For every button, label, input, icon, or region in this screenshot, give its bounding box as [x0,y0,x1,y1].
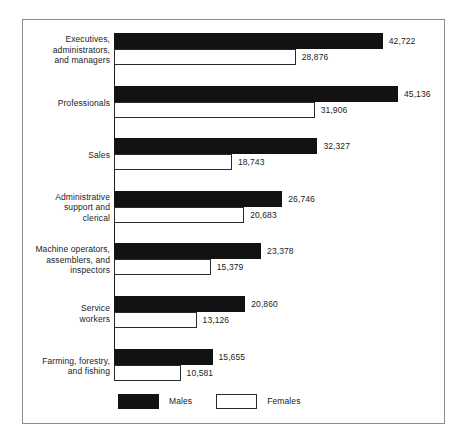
bar-value-label: 18,743 [232,157,265,167]
bar-row-females: 18,743 [114,154,458,170]
bar-row-males: 15,655 [114,349,458,365]
bar-value-label: 28,876 [296,52,329,62]
bar-row-males: 42,722 [114,33,458,49]
bar-value-label: 13,126 [197,315,230,325]
bar-males[interactable] [114,349,213,365]
bar-group: Sales32,32718,743 [23,138,444,172]
bar-value-label: 32,327 [317,141,350,151]
bar-males[interactable] [114,33,383,49]
bar-group: Farming, forestry, and fishing15,65510,5… [23,349,444,383]
bar-row-males: 23,378 [114,243,458,259]
bar-value-label: 45,136 [398,89,431,99]
bar-group: Executives, administrators, and managers… [23,33,444,67]
category-label: Machine operators, assemblers, and inspe… [0,245,114,277]
bar-males[interactable] [114,243,261,259]
category-label: Farming, forestry, and fishing [0,355,114,376]
bar-row-females: 10,581 [114,365,458,381]
legend-swatch-females [216,394,257,409]
bar-females[interactable] [114,102,315,118]
legend-label: Females [267,396,300,406]
bar-row-males: 32,327 [114,138,458,154]
chart-frame: Executives, administrators, and managers… [22,19,445,424]
bar-males[interactable] [114,296,245,312]
category-label: Executives, administrators, and managers [0,34,114,66]
legend-item-females[interactable]: Females [216,394,300,409]
category-label: Professionals [0,97,114,108]
bar-group: Machine operators, assemblers, and inspe… [23,243,444,277]
bar-value-label: 31,906 [315,105,348,115]
bar-group: Administrative support and clerical26,74… [23,191,444,225]
bar-row-females: 20,683 [114,207,458,223]
bar-males[interactable] [114,191,282,207]
bar-row-females: 28,876 [114,49,458,65]
bar-value-label: 15,379 [211,262,244,272]
bar-group: Professionals45,13631,906 [23,86,444,120]
bar-value-label: 26,746 [282,194,315,204]
category-label: Administrative support and clerical [0,192,114,224]
bar-value-label: 15,655 [213,352,246,362]
bar-group: Service workers20,86013,126 [23,296,444,330]
bar-females[interactable] [114,312,197,328]
bar-males[interactable] [114,138,317,154]
plot-area: Executives, administrators, and managers… [23,20,444,423]
bar-value-label: 20,860 [245,299,278,309]
legend-swatch-males [118,394,159,409]
bar-row-males: 20,860 [114,296,458,312]
category-label: Service workers [0,303,114,324]
bar-value-label: 20,683 [244,210,277,220]
bar-males[interactable] [114,86,398,102]
bar-row-females: 31,906 [114,102,458,118]
bar-females[interactable] [114,207,244,223]
bar-females[interactable] [114,259,211,275]
legend-label: Males [169,396,192,406]
bar-value-label: 23,378 [261,246,294,256]
bar-row-females: 15,379 [114,259,458,275]
bar-row-males: 45,136 [114,86,458,102]
bar-value-label: 42,722 [383,36,416,46]
legend-item-males[interactable]: Males [118,394,192,409]
bar-row-males: 26,746 [114,191,458,207]
bar-row-females: 13,126 [114,312,458,328]
chart-legend: MalesFemales [118,392,324,410]
bar-females[interactable] [114,49,296,65]
category-label: Sales [0,150,114,161]
bar-females[interactable] [114,154,232,170]
bar-females[interactable] [114,365,181,381]
bar-value-label: 10,581 [181,368,214,378]
